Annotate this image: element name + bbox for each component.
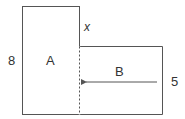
- label-a: A: [46, 53, 55, 68]
- rectangle-b: [80, 47, 163, 115]
- label-5: 5: [171, 74, 178, 89]
- label-b: B: [115, 64, 124, 79]
- label-8: 8: [8, 53, 15, 68]
- label-x: x: [83, 20, 91, 34]
- area-diagram: 8 A x B 5: [0, 0, 185, 119]
